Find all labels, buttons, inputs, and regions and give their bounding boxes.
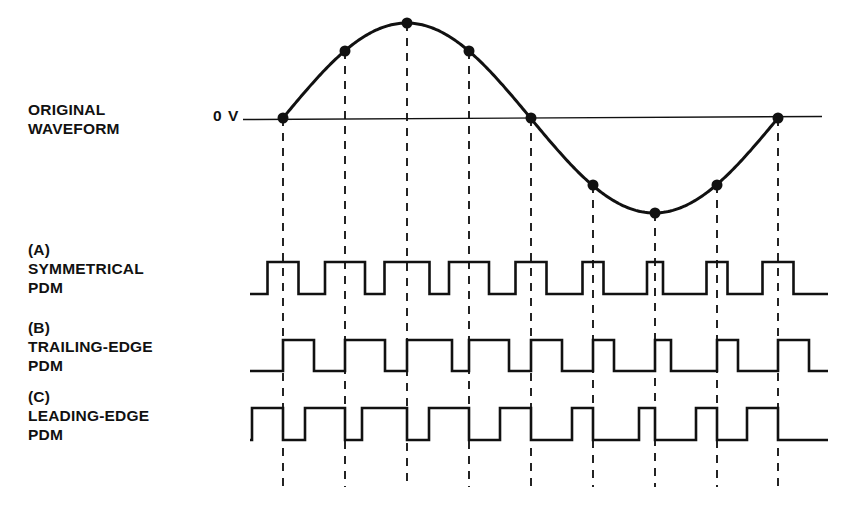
sample-point-marker: [773, 113, 784, 124]
symmetrical-pdm-trace: [250, 262, 828, 294]
sample-point-marker: [526, 113, 537, 124]
sample-point-marker: [402, 18, 413, 29]
sample-point-marker: [278, 113, 289, 124]
sample-point-marker: [464, 46, 475, 57]
sample-point-marker: [650, 208, 661, 219]
sample-point-marker: [712, 180, 723, 191]
trailing-edge-pdm-trace: [250, 340, 828, 371]
sample-point-marker: [588, 180, 599, 191]
waveform-plot: [0, 0, 862, 506]
pdm-waveform-figure: ORIGINAL WAVEFORM (A) SYMMETRICAL PDM (B…: [0, 0, 862, 506]
sample-point-markers: [278, 18, 784, 219]
leading-edge-pdm-trace: [250, 408, 828, 440]
sample-point-marker: [340, 46, 351, 57]
